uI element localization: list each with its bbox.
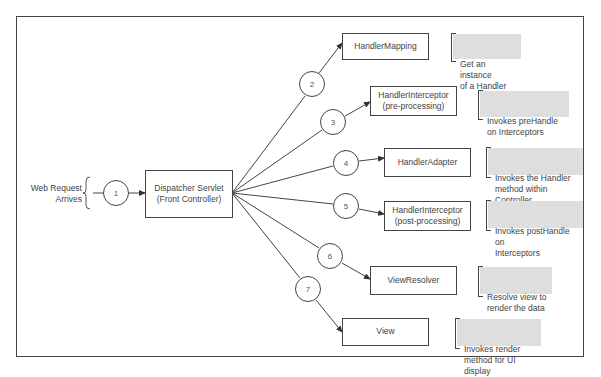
dispatcher-servlet-box: Dispatcher Servlet (Front Controller) [145, 170, 233, 218]
step-6-circle: 6 [317, 243, 343, 269]
note-bracket [455, 318, 460, 349]
note-text: Resolve view to render the data [487, 292, 547, 313]
note-bracket [478, 266, 483, 297]
note-bracket [486, 147, 491, 178]
note-bracket [486, 200, 491, 231]
handler-adapter-box: HandlerAdapter [384, 148, 471, 177]
step-5-circle: 5 [333, 193, 359, 219]
note-posthandle: Invokes postHandle on Interceptors [488, 201, 583, 228]
handler-interceptor-post-box: HandlerInterceptor (post-processing) [384, 201, 471, 231]
note-prehandle: Invokes preHandle on Interceptors [480, 91, 569, 117]
step-1-circle: 1 [103, 180, 129, 206]
web-request-label: Web Request Arrives [20, 183, 82, 206]
step-4-circle: 4 [333, 150, 359, 176]
step-7-circle: 7 [295, 276, 321, 302]
view-resolver-box: ViewResolver [370, 266, 457, 295]
step-2-circle: 2 [299, 71, 325, 97]
handler-mapping-box: HandlerMapping [342, 33, 429, 60]
note-handler-method: Invokes the Handler method within Contro… [488, 148, 583, 175]
note-bracket [451, 33, 456, 62]
view-box: View [342, 318, 429, 346]
note-resolve-view: Resolve view to render the data [480, 267, 552, 294]
step-3-circle: 3 [320, 109, 346, 135]
note-bracket [478, 90, 483, 120]
note-handler-mapping: Get an instance of a Handler [453, 34, 521, 59]
input-brace [83, 177, 90, 209]
note-render: Invokes render method for UI display [457, 319, 541, 346]
handler-interceptor-pre-box: HandlerInterceptor (pre-processing) [370, 86, 457, 116]
